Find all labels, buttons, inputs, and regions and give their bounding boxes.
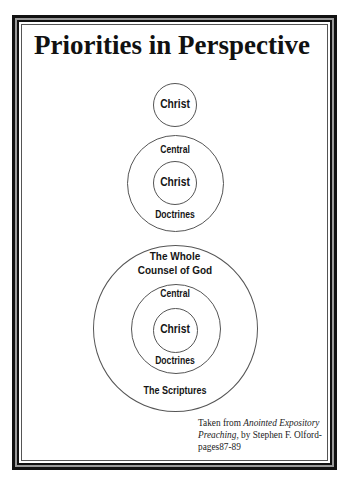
citation-pages: pages87-89 — [198, 442, 241, 452]
d3-outer-top-label-1: The Whole — [75, 251, 275, 262]
citation: Taken from Anointed Expository Preaching… — [198, 417, 330, 453]
d3-outer-top-label-2: Counsel of God — [75, 265, 275, 276]
citation-author: , by Stephen F. Olford- — [236, 430, 322, 440]
d3-core-label: Christ — [93, 322, 257, 336]
citation-prefix: Taken from — [198, 418, 243, 428]
d3-middle-bottom-label: Doctrines — [93, 354, 257, 366]
d2-bottom-label: Doctrines — [93, 208, 257, 220]
d2-top-label: Central — [93, 143, 257, 155]
d3-outer-bottom-label: The Scriptures — [93, 384, 257, 396]
d3-middle-top-label: Central — [93, 287, 257, 299]
d1-core-label: Christ — [93, 97, 257, 111]
d2-core-label: Christ — [93, 175, 257, 189]
page-title: Priorities in Perspective — [0, 30, 344, 60]
